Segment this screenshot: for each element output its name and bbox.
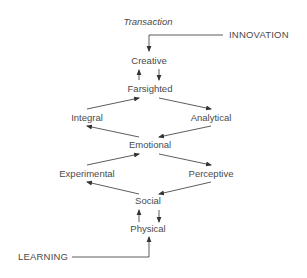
- learning-label: LEARNING: [18, 251, 68, 262]
- node-farsighted: Farsighted: [128, 83, 173, 94]
- farsighted-to-analytical-arrow: [159, 98, 211, 109]
- diagram-title: Transaction: [124, 16, 173, 27]
- node-physical: Physical: [130, 223, 165, 234]
- perceptive-to-social-arrow: [159, 182, 211, 194]
- emotional-to-perceptive-arrow: [159, 154, 211, 165]
- analytical-to-emotional-arrow: [159, 126, 211, 137]
- node-emotional: Emotional: [129, 139, 171, 150]
- integral-to-farsighted-arrow: [87, 98, 139, 109]
- learning-connector-arrow: [72, 237, 149, 257]
- node-experimental: Experimental: [59, 168, 114, 179]
- social-to-experimental-arrow: [87, 182, 139, 194]
- node-creative: Creative: [131, 55, 166, 66]
- transaction-diagram: Transaction INNOVATION Creative Farsight…: [0, 0, 307, 278]
- node-perceptive: Perceptive: [189, 168, 234, 179]
- node-integral: Integral: [71, 112, 103, 123]
- innovation-connector-arrow: [149, 35, 223, 51]
- experimental-to-emotional-arrow: [87, 154, 139, 165]
- innovation-label: INNOVATION: [229, 29, 289, 40]
- node-social: Social: [135, 195, 161, 206]
- node-analytical: Analytical: [191, 112, 232, 123]
- emotional-to-integral-arrow: [87, 126, 139, 137]
